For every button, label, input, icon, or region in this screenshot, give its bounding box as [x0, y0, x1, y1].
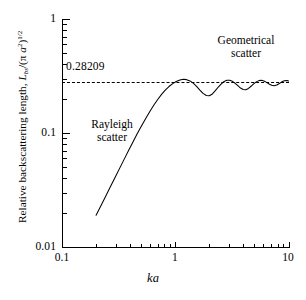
data-curve-layer	[0, 0, 306, 300]
chart-figure: 1 0.1 0.01 0.1 1 10 Relative backscatter…	[0, 0, 306, 300]
backscattering-curve	[96, 79, 288, 215]
